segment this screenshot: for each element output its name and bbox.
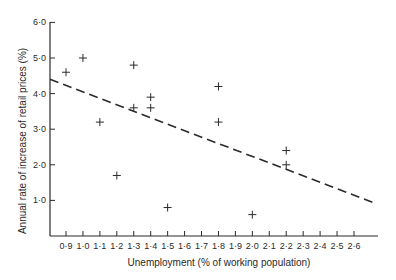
x-tick-label: 1·0 bbox=[76, 241, 89, 251]
plus-marker bbox=[164, 204, 172, 212]
x-tick-label: 1·5 bbox=[161, 241, 174, 251]
x-tick-label: 1·8 bbox=[212, 241, 225, 251]
x-tick-label: 1·3 bbox=[127, 241, 140, 251]
x-tick-label: 1·6 bbox=[178, 241, 191, 251]
x-tick-label: 0·9 bbox=[59, 241, 72, 251]
x-tick-label: 1·4 bbox=[144, 241, 157, 251]
y-tick-label: 3·0 bbox=[33, 124, 46, 134]
plus-marker bbox=[147, 93, 155, 101]
x-tick-label: 2·5 bbox=[331, 241, 344, 251]
x-tick-label: 1·7 bbox=[195, 241, 208, 251]
plus-marker bbox=[79, 54, 87, 62]
plus-marker bbox=[130, 61, 138, 69]
x-tick-label: 1·2 bbox=[110, 241, 123, 251]
x-tick-label: 2·3 bbox=[297, 241, 310, 251]
plus-marker bbox=[214, 82, 222, 90]
plus-marker bbox=[248, 211, 256, 219]
y-tick-label: 1·0 bbox=[33, 195, 46, 205]
x-tick-label: 2·6 bbox=[347, 241, 360, 251]
scatter-chart: 1·02·03·04·05·06·0 0·91·01·11·21·31·41·5… bbox=[0, 0, 396, 280]
x-tick-label: 2·4 bbox=[314, 241, 327, 251]
y-tick-label: 2·0 bbox=[33, 160, 46, 170]
trend-line bbox=[50, 79, 377, 204]
x-tick-label: 2·2 bbox=[280, 241, 293, 251]
y-tick-label: 5·0 bbox=[33, 53, 46, 63]
x-tick-label: 2·0 bbox=[246, 241, 259, 251]
y-axis: 1·02·03·04·05·06·0 bbox=[33, 17, 55, 236]
plus-marker bbox=[282, 147, 290, 155]
x-axis: 0·91·01·11·21·31·41·51·61·71·81·92·02·12… bbox=[50, 231, 378, 251]
plus-marker bbox=[96, 118, 104, 126]
x-tick-label: 1·1 bbox=[93, 241, 106, 251]
plus-marker bbox=[147, 104, 155, 112]
plus-marker bbox=[282, 161, 290, 169]
plus-marker bbox=[62, 68, 70, 76]
y-tick-label: 6·0 bbox=[33, 17, 46, 27]
dashed-regression-line bbox=[50, 79, 377, 204]
y-tick-label: 4·0 bbox=[33, 89, 46, 99]
plus-marker bbox=[214, 118, 222, 126]
x-tick-label: 2·1 bbox=[263, 241, 276, 251]
x-tick-label: 1·9 bbox=[229, 241, 242, 251]
data-points bbox=[62, 54, 290, 219]
y-axis-title: Annual rate of increase of retail prices… bbox=[17, 48, 28, 234]
plus-marker bbox=[113, 171, 121, 179]
x-axis-title: Unemployment (% of working population) bbox=[128, 257, 311, 268]
